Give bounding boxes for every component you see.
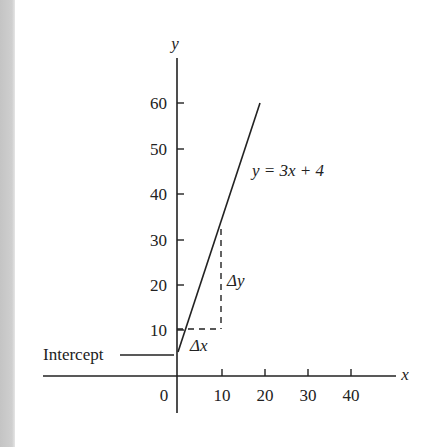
y-tick-label-10: 10 <box>150 321 167 340</box>
function-line <box>178 103 260 352</box>
x-tick-label-30: 30 <box>300 386 317 405</box>
origin-label: 0 <box>160 386 169 405</box>
y-tick-label-40: 40 <box>150 185 167 204</box>
x-tick-label-40: 40 <box>343 386 360 405</box>
delta-y-label: Δy <box>226 271 245 290</box>
y-axis-label: y <box>169 34 179 53</box>
delta-x-label: Δx <box>189 336 208 355</box>
equation-label: y = 3x + 4 <box>250 161 325 180</box>
intercept-label: Intercept <box>43 345 104 364</box>
x-tick-label-20: 20 <box>257 386 274 405</box>
y-tick-label-60: 60 <box>150 94 167 113</box>
y-tick-label-50: 50 <box>150 140 167 159</box>
y-tick-label-20: 20 <box>150 276 167 295</box>
y-ticks <box>177 103 184 330</box>
x-tick-label-10: 10 <box>214 386 231 405</box>
x-axis-label: x <box>400 365 409 384</box>
linear-function-chart: 10 20 30 40 50 60 0 10 20 30 40 y x y = … <box>0 0 427 447</box>
y-tick-label-30: 30 <box>150 231 167 250</box>
x-ticks <box>222 369 351 376</box>
